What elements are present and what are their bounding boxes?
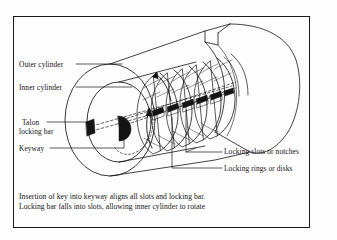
label-locking-rings-or-disks: Locking rings or disks (224, 164, 293, 173)
caption-line-1: Insertion of key into keyway aligns all … (19, 192, 299, 202)
figure-page: Outer cylinder Inner cylinder Talon lock… (0, 0, 337, 240)
figure-caption: Insertion of key into keyway aligns all … (19, 192, 299, 213)
label-inner-cylinder: Inner cylinder (19, 83, 62, 92)
label-outer-cylinder: Outer cylinder (19, 60, 63, 69)
caption-line-2: Locking bar falls into slots, allowing i… (19, 202, 299, 212)
label-talon-line1: Talon (22, 118, 39, 127)
label-talon-locking-bar: Talon locking bar (22, 118, 54, 136)
label-talon-line2: locking bar (19, 127, 54, 136)
label-locking-slots-or-notches: Locking slots or notches (224, 147, 299, 156)
label-keyway: Keyway (19, 144, 44, 153)
